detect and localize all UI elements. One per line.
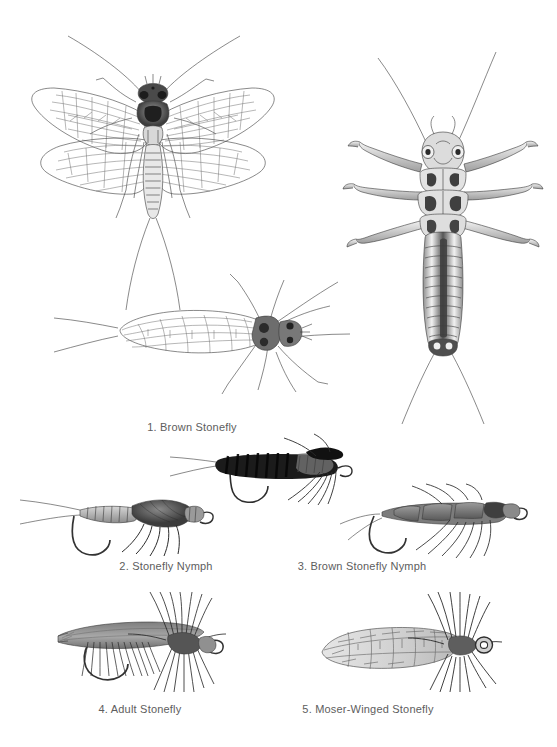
thorax xyxy=(448,636,476,655)
figure-brown-stonefly-adult-dorsal xyxy=(8,22,298,312)
hook-eye xyxy=(338,466,352,477)
folded-wings xyxy=(120,310,258,353)
head xyxy=(422,116,464,174)
caption-adult-stonefly: 4. Adult Stonefly xyxy=(99,703,182,715)
fly-moser-winged-stonefly xyxy=(308,592,508,692)
head xyxy=(279,320,312,346)
hook-eye xyxy=(476,637,493,653)
tails xyxy=(340,514,382,540)
abdomen xyxy=(143,145,163,219)
abdomen xyxy=(80,506,139,523)
body xyxy=(382,502,510,524)
moser-wing xyxy=(322,627,458,669)
caption-stonefly-nymph: 2. Stonefly Nymph xyxy=(119,560,212,572)
tails xyxy=(20,500,80,524)
wingcase xyxy=(132,500,192,527)
head xyxy=(199,636,216,652)
fly-brown-stonefly-nymph xyxy=(338,484,548,560)
cerci xyxy=(402,354,484,424)
cerci xyxy=(54,318,118,352)
abdomen xyxy=(423,232,463,350)
head xyxy=(138,74,168,104)
fly-stonefly-nymph xyxy=(18,484,228,560)
illustration-plate: 1. Brown Stonefly xyxy=(0,0,557,747)
caption-brown-stonefly-nymph: 3. Brown Stonefly Nymph xyxy=(298,560,427,572)
tails xyxy=(170,457,216,476)
head xyxy=(503,504,520,518)
caption-moser-winged-stonefly: 5. Moser-Winged Stonefly xyxy=(302,703,433,715)
legs xyxy=(122,524,179,556)
figure-brown-stonefly-nymph-dorsal xyxy=(330,24,555,424)
antennae xyxy=(378,52,496,142)
head xyxy=(185,506,204,522)
fly-adult-stonefly xyxy=(48,592,248,692)
figure-brown-stonefly-adult-folded xyxy=(52,272,352,412)
thorax xyxy=(252,316,281,350)
terminal-segment xyxy=(429,339,458,356)
